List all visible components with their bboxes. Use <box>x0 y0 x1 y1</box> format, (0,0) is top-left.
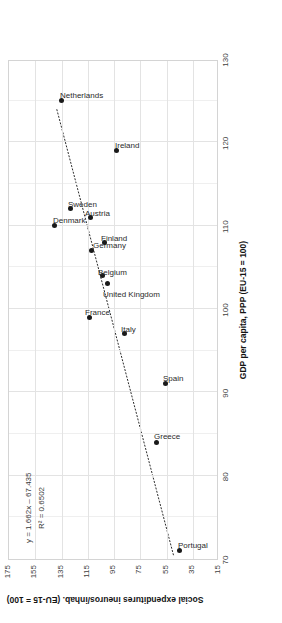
gridline-horizontal <box>140 61 141 559</box>
y-tick-label: 175 <box>3 565 12 599</box>
y-tick-label: 75 <box>134 565 143 599</box>
data-point-label: Italy <box>121 325 136 334</box>
x-tick-label: 90 <box>221 373 230 413</box>
y-tick-label: 135 <box>56 565 65 599</box>
x-tick-label: 120 <box>221 123 230 163</box>
gridline-vertical-minor <box>9 433 217 434</box>
x-tick-label: 70 <box>221 540 230 580</box>
y-axis-title: Social expenditures ineuros/inhab. (EU-1… <box>0 595 220 605</box>
x-tick-label: 80 <box>221 457 230 497</box>
y-tick-label: 155 <box>29 565 38 599</box>
data-point-label: Spain <box>163 374 183 383</box>
y-tick-label: 15 <box>213 565 222 599</box>
data-point-label: Ireland <box>115 141 139 150</box>
gridline-vertical <box>9 308 217 309</box>
regression-annotation: y = 1.662x – 67.435 R² = 0.6502 <box>22 473 48 544</box>
y-tick-label: 35 <box>187 565 196 599</box>
x-tick-label: 100 <box>221 290 230 330</box>
gridline-vertical <box>9 391 217 392</box>
data-point-label: Austria <box>85 209 110 218</box>
data-point-label: France <box>85 308 110 317</box>
gridline-horizontal <box>114 61 115 559</box>
data-point-label: Netherlands <box>60 91 103 100</box>
x-axis-title: GDP per capita, PPP (EU-15 = 100) <box>238 60 248 560</box>
gridline-vertical-minor <box>9 350 217 351</box>
data-point-label: Finland <box>101 234 127 243</box>
data-point-label: Belgium <box>98 268 127 277</box>
scatter-chart-figure: PortugalGreeceSpainItalyFranceUnited Kin… <box>0 0 282 623</box>
gridline-vertical-minor <box>9 100 217 101</box>
gridline-horizontal <box>62 61 63 559</box>
data-point-label: Portugal <box>178 541 208 550</box>
regression-equation: y = 1.662x – 67.435 <box>22 473 35 544</box>
regression-r-squared: R² = 0.6502 <box>35 473 48 544</box>
x-tick-label: 130 <box>221 40 230 80</box>
gridline-horizontal <box>193 61 194 559</box>
y-tick-label: 95 <box>108 565 117 599</box>
rotated-figure-wrapper: PortugalGreeceSpainItalyFranceUnited Kin… <box>0 0 282 623</box>
y-tick-label: 55 <box>161 565 170 599</box>
gridline-vertical <box>9 225 217 226</box>
gridline-horizontal <box>167 61 168 559</box>
y-tick-label: 115 <box>82 565 91 599</box>
x-tick-label: 110 <box>221 207 230 247</box>
gridline-vertical-minor <box>9 183 217 184</box>
gridline-vertical <box>9 141 217 142</box>
data-point-label: Greece <box>154 432 180 441</box>
data-point-label: United Kingdom <box>103 290 160 299</box>
data-point-label: Denmark <box>53 216 85 225</box>
data-point-label: Sweden <box>68 200 97 209</box>
